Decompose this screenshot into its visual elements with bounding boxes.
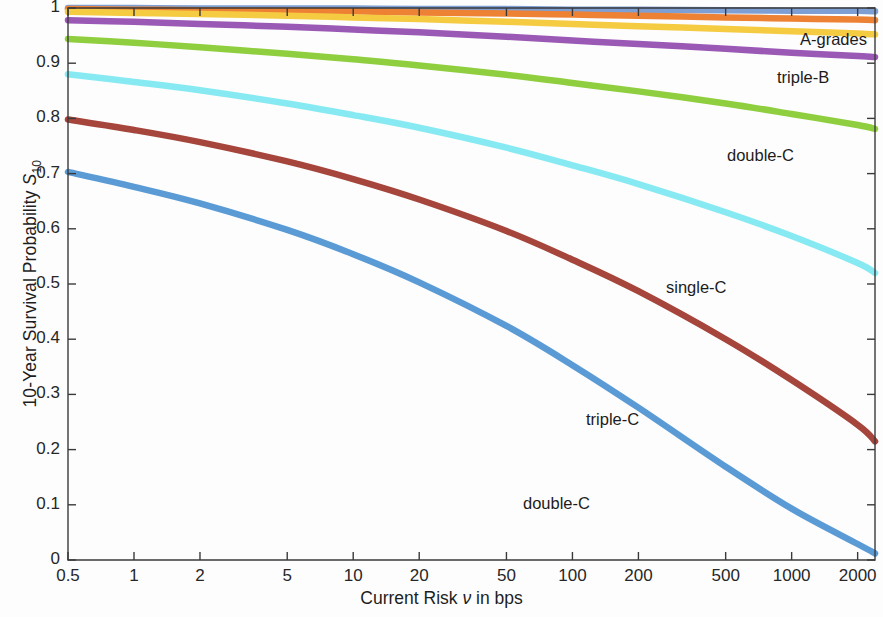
x-tick-label-1: 1 bbox=[99, 566, 169, 586]
annotation-triple-b: triple-B bbox=[777, 68, 829, 87]
x-tick-label-7: 100 bbox=[537, 566, 607, 586]
annotation-a-grades: A-grades bbox=[800, 30, 867, 49]
y-axis-title: 10-Year Survival Probability S10 bbox=[20, 4, 44, 564]
x-tick-label-4: 10 bbox=[318, 566, 388, 586]
annotation-double-c-green: double-C bbox=[727, 146, 794, 165]
x-tick-label-2: 2 bbox=[165, 566, 235, 586]
x-tick-label-11: 2000 bbox=[823, 566, 883, 586]
x-tick-label-6: 50 bbox=[471, 566, 541, 586]
y-axis-title-prefix: 10-Year Survival Probability bbox=[20, 185, 40, 407]
x-axis-title: Current Risk ν in bps bbox=[0, 588, 883, 609]
x-tick-label-5: 20 bbox=[384, 566, 454, 586]
x-axis-tick-labels: 0.512510205010020050010002000 bbox=[0, 0, 883, 617]
annotation-single-c: single-C bbox=[666, 278, 727, 297]
annotation-double-c-blue: double-C bbox=[523, 494, 590, 513]
x-tick-label-0: 0.5 bbox=[33, 566, 103, 586]
x-tick-label-9: 500 bbox=[691, 566, 761, 586]
y-axis-title-symbol: S bbox=[20, 174, 40, 186]
y-axis-title-subscript: 10 bbox=[30, 160, 44, 174]
x-axis-title-suffix: in bps bbox=[471, 588, 523, 608]
x-tick-label-3: 5 bbox=[252, 566, 322, 586]
x-tick-label-10: 1000 bbox=[757, 566, 827, 586]
x-axis-title-symbol: ν bbox=[462, 588, 471, 608]
annotation-triple-c: triple-C bbox=[586, 410, 639, 429]
x-tick-label-8: 200 bbox=[603, 566, 673, 586]
survival-probability-chart: 00.10.20.30.40.50.60.70.80.91 0.51251020… bbox=[0, 0, 883, 617]
x-axis-title-prefix: Current Risk bbox=[360, 588, 462, 608]
